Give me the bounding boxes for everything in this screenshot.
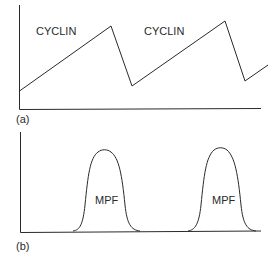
cyclin-label-1: CYCLIN — [36, 25, 76, 37]
cyclin-label-2: CYCLIN — [144, 25, 184, 37]
panel-a-x-axis — [20, 109, 262, 110]
mpf-label-2: MPF — [212, 194, 236, 206]
panel-b: MPF MPF (b) — [16, 132, 261, 252]
mpf-peak-2 — [188, 148, 256, 231]
cyclin-mpf-diagram: CYCLIN CYCLIN (a) MPF MPF (b) — [0, 0, 279, 261]
panel-a-label: (a) — [16, 113, 29, 125]
panel-b-label: (b) — [16, 240, 29, 252]
mpf-label-1: MPF — [95, 194, 119, 206]
panel-b-x-axis — [21, 231, 262, 233]
mpf-peak-1 — [73, 150, 140, 231]
panel-a: CYCLIN CYCLIN (a) — [16, 5, 268, 125]
